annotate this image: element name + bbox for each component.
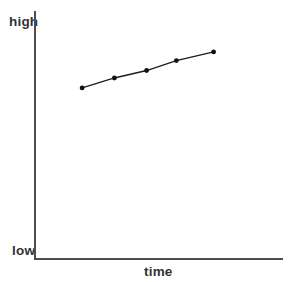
data-point-marker	[174, 58, 179, 63]
line-chart-figure: high low time	[0, 0, 290, 282]
data-point-marker	[112, 76, 117, 81]
chart-canvas	[0, 0, 290, 282]
data-point-marker	[80, 86, 85, 91]
data-point-marker	[211, 50, 216, 55]
data-point-marker	[144, 68, 149, 73]
